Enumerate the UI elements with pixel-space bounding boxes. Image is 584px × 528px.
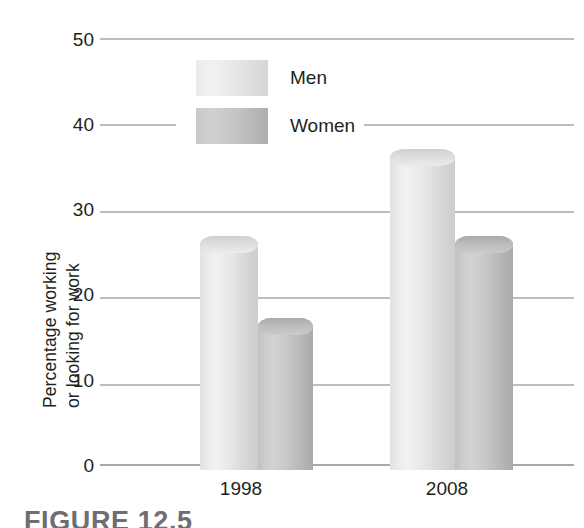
bar-body xyxy=(390,157,455,470)
y-tick-label-20: 20 xyxy=(54,285,94,304)
bar-top-cap-inner xyxy=(200,236,258,253)
bar-body xyxy=(258,326,313,470)
y-tick-label-50: 50 xyxy=(54,30,94,49)
legend-label-men: Men xyxy=(290,67,327,89)
x-tick-label-2008: 2008 xyxy=(392,478,502,500)
bar-2008-men xyxy=(390,149,455,470)
gridline-40-right xyxy=(364,124,574,126)
bar-1998-men xyxy=(200,236,258,470)
gridline-40-left xyxy=(100,124,176,126)
men-swatch-icon xyxy=(196,60,268,96)
legend-item-men: Men xyxy=(196,58,355,98)
bar-top-cap-inner xyxy=(390,149,455,166)
figure-bar-chart: Percentage working or looking for work 5… xyxy=(0,0,584,528)
y-tick-label-10: 10 xyxy=(54,371,94,390)
y-tick-label-40: 40 xyxy=(54,115,94,134)
gridline-30 xyxy=(100,211,574,213)
bar-top-cap-inner xyxy=(455,236,513,253)
x-tick-label-1998: 1998 xyxy=(186,478,296,500)
legend-item-women: Women xyxy=(196,106,355,146)
y-tick-label-0: 0 xyxy=(54,456,94,475)
bar-body xyxy=(200,244,258,470)
bar-top-cap-inner xyxy=(258,318,313,335)
bar-2008-women xyxy=(455,236,513,470)
bar-1998-women xyxy=(258,318,313,470)
y-axis-tick-labels: 50 40 30 20 10 0 xyxy=(48,30,94,470)
bar-body xyxy=(455,244,513,470)
women-swatch-icon xyxy=(196,108,268,144)
chart-legend: Men Women xyxy=(196,58,355,146)
figure-caption: FIGURE 12.5 xyxy=(24,506,193,528)
legend-label-women: Women xyxy=(290,115,355,137)
gridline-50 xyxy=(100,38,574,40)
y-tick-label-30: 30 xyxy=(54,200,94,219)
